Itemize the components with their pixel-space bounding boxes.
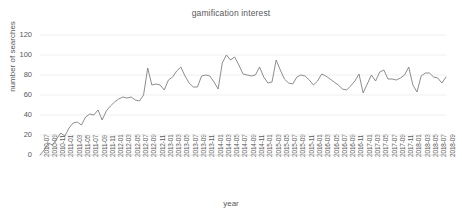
data-series-line [40, 55, 446, 155]
gridlines [40, 35, 446, 155]
chart-container: gamification interest number of searches… [0, 0, 462, 213]
plot-area [0, 0, 462, 213]
